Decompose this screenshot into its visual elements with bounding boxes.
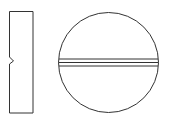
diagram-svg	[0, 0, 170, 123]
side-view	[10, 12, 34, 114]
side-view-outline	[10, 12, 34, 114]
tablet-diagram	[0, 0, 170, 123]
top-view	[59, 13, 159, 113]
